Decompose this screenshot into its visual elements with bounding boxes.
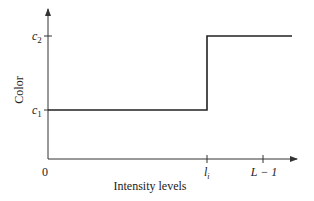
c1-label: c1	[32, 103, 42, 119]
step-function-diagram: c2 c1 0 li L − 1 Intensity levels Color	[0, 0, 314, 201]
c2-label: c2	[32, 29, 42, 45]
lmax-label: L − 1	[250, 165, 278, 179]
y-axis-title: Color	[12, 76, 26, 103]
li-label: li	[204, 165, 210, 181]
origin-label: 0	[42, 165, 48, 179]
step-line	[48, 36, 292, 110]
x-axis-title: Intensity levels	[114, 179, 187, 193]
